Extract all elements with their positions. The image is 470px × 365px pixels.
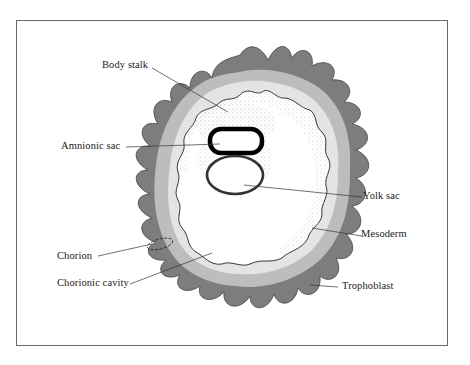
chorionic-sac-illustration bbox=[0, 0, 470, 365]
label-mesoderm: Mesoderm bbox=[361, 229, 407, 240]
label-yolk-sac: Yolk sac bbox=[363, 191, 400, 202]
label-amnionic-sac: Amnionic sac bbox=[61, 141, 120, 152]
label-trophoblast: Trophoblast bbox=[342, 281, 393, 292]
yolk-sac bbox=[207, 156, 263, 194]
label-chorion: Chorion bbox=[57, 251, 92, 262]
label-body-stalk: Body stalk bbox=[102, 60, 148, 71]
label-chorionic-cavity: Chorionic cavity bbox=[57, 278, 129, 289]
